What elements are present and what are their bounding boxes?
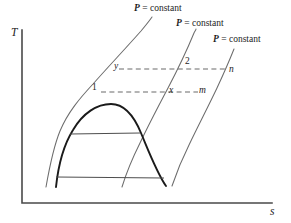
ts-diagram-figure: T s P = constant P = constant P = consta…	[0, 0, 291, 223]
state-point-m: m	[199, 86, 206, 96]
isobar-curve-3	[172, 49, 234, 186]
saturation-dome-curve	[56, 104, 166, 187]
pressure-label-1: P = constant	[134, 4, 182, 14]
pressure-equals-2: =	[182, 18, 192, 28]
pressure-word-2: constant	[192, 18, 224, 28]
state-point-1: 1	[92, 83, 97, 93]
state-point-2: 2	[185, 57, 190, 67]
pressure-word-3: constant	[229, 34, 261, 44]
isobar-curve-2	[122, 29, 196, 187]
state-point-x: x	[169, 86, 173, 96]
tie-line-lower	[56, 177, 164, 178]
state-point-y: y	[114, 62, 118, 72]
pressure-equals-1: =	[140, 3, 150, 13]
isobar-curve-1	[46, 17, 152, 187]
pressure-label-2: P = constant	[176, 19, 224, 29]
pressure-label-3: P = constant	[213, 35, 261, 45]
x-axis-label: s	[270, 206, 274, 218]
pressure-equals-3: =	[219, 34, 229, 44]
pressure-word-1: constant	[150, 3, 182, 13]
tie-line-upper	[70, 133, 140, 134]
y-axis-label: T	[11, 27, 17, 39]
state-point-n: n	[229, 65, 234, 75]
